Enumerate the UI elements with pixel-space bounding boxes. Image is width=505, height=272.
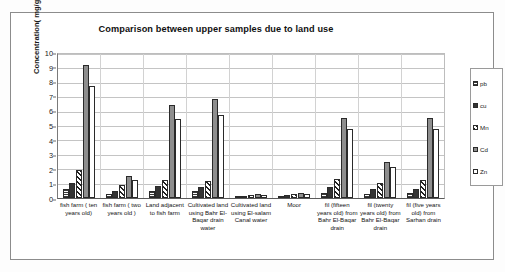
bar-cd[interactable] [298,193,304,198]
bar-group-bars [144,54,186,198]
bar-cd[interactable] [83,65,89,198]
bar-group [402,54,444,198]
bar-pb[interactable] [321,193,327,198]
bar-group [273,54,316,198]
bar-pb[interactable] [106,194,112,198]
y-axis-ticks: 012345678910 [33,53,55,199]
legend-item-mn[interactable]: Mn [473,124,500,131]
y-axis-tick-label: 8 [49,78,53,87]
chart-title: Comparison between upper samples due to … [51,24,381,34]
bar-cd[interactable] [126,176,132,198]
legend-label: Mn [480,124,489,131]
x-axis-label: fish farm ( ten years old) [57,201,100,231]
y-axis-tick-label: 6 [49,107,53,116]
bar-cu[interactable] [413,189,419,198]
x-axis-label: Moor [273,201,316,231]
y-axis-tick-mark [53,184,56,185]
plot-area [57,53,445,199]
bar-pb[interactable] [235,196,241,198]
legend-swatch-cd-icon [473,147,478,152]
bar-pb[interactable] [149,191,155,198]
bar-cd[interactable] [169,105,175,198]
y-axis-tick-label: 7 [49,92,53,101]
legend-label: cu [480,102,487,109]
bar-cu[interactable] [241,196,247,198]
x-axis-label: fil (fifteen years old) from Bahr El-Baq… [316,201,359,231]
bar-group-bars [58,54,100,198]
bar-group-bars [359,54,401,198]
bar-zn[interactable] [89,86,95,198]
bar-cu[interactable] [327,187,333,198]
bar-mn[interactable] [420,180,426,198]
bar-pb[interactable] [278,196,284,198]
bar-cu[interactable] [198,187,204,198]
bar-mn[interactable] [291,194,297,198]
legend-swatch-mn-icon [473,125,478,130]
legend-label: pb [480,80,487,87]
bar-groups [58,54,444,198]
legend-label: Cd [480,146,488,153]
y-axis-tick-mark [53,97,56,98]
bar-cd[interactable] [427,118,433,198]
bar-cd[interactable] [255,194,261,198]
legend-item-zn[interactable]: Zn [473,168,500,175]
y-axis-tick-label: 5 [49,122,53,131]
x-axis-labels: fish farm ( ten years old)fish farm ( tw… [57,201,445,231]
x-axis-label: fil (five years old) from Sarhan drain [402,201,445,231]
bar-group [316,54,359,198]
x-axis-label: Cultivated land using Bahr El-Baqar drai… [186,201,229,231]
x-axis-label: fish farm ( two years old ) [100,201,143,231]
y-axis-tick-mark [53,82,56,83]
bar-zn[interactable] [347,129,353,198]
bar-mn[interactable] [334,179,340,198]
bar-cu[interactable] [112,191,118,198]
legend-swatch-cu-icon [473,103,478,108]
bar-mn[interactable] [248,195,254,198]
bar-cd[interactable] [341,118,347,198]
y-axis-tick-mark [53,199,56,200]
bar-group-bars [402,54,444,198]
y-axis-tick-label: 0 [49,195,53,204]
legend-swatch-pb-icon [473,81,478,86]
bar-mn[interactable] [119,185,125,198]
bar-pb[interactable] [364,194,370,198]
bar-zn[interactable] [218,115,224,198]
bar-mn[interactable] [205,181,211,198]
legend-label: Zn [480,168,487,175]
y-axis-tick-mark [53,141,56,142]
bar-cu[interactable] [69,183,75,198]
bar-cu[interactable] [370,189,376,198]
bar-group-bars [273,54,315,198]
x-axis-label: Land adjacent to fish farm [143,201,186,231]
bar-zn[interactable] [132,180,138,198]
y-axis-tick-mark [53,126,56,127]
bar-pb[interactable] [63,189,69,198]
bar-zn[interactable] [261,195,267,198]
bar-pb[interactable] [192,191,198,198]
legend-item-cd[interactable]: Cd [473,146,500,153]
legend-item-cu[interactable]: cu [473,102,500,109]
bar-cd[interactable] [212,99,218,198]
bar-cu[interactable] [155,186,161,198]
chart-legend: pbcuMnCdZn [470,68,503,186]
bar-cu[interactable] [284,195,290,198]
legend-item-pb[interactable]: pb [473,80,500,87]
bar-zn[interactable] [175,119,181,198]
bar-group [144,54,187,198]
bar-zn[interactable] [304,194,310,198]
y-axis-tick-label: 1 [49,180,53,189]
bar-cd[interactable] [384,162,390,199]
bar-mn[interactable] [377,183,383,198]
legend-swatch-zn-icon [473,169,478,174]
bar-zn[interactable] [433,129,439,198]
bar-group-bars [101,54,143,198]
bar-group [187,54,230,198]
bar-zn[interactable] [390,167,396,198]
bar-mn[interactable] [76,170,82,198]
y-axis-tick-mark [53,155,56,156]
y-axis-tick-label: 10 [45,49,53,58]
bar-mn[interactable] [162,180,168,198]
y-axis-tick-label: 3 [49,151,53,160]
bar-pb[interactable] [407,193,413,198]
x-axis-label: Cultivated land using El-salam Canal wat… [229,201,272,231]
